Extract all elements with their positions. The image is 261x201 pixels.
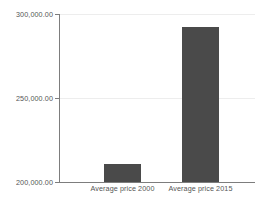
y-tick-mark-300000 — [55, 14, 59, 15]
x-category-label-1: Average price 2015 — [160, 184, 241, 193]
gridline-300000 — [60, 14, 255, 15]
y-tick-label-300000: 300,000.00 — [1, 10, 53, 19]
y-tick-label-250000: 250,000.00 — [1, 94, 53, 103]
y-tick-label-200000: 200,000.00 — [1, 178, 53, 187]
bar-chart: 300,000.00 250,000.00 200,000.00 Average… — [0, 0, 261, 201]
x-axis-baseline — [59, 182, 255, 183]
y-axis-spine — [59, 14, 60, 183]
y-tick-mark-250000 — [55, 98, 59, 99]
gridline-250000 — [60, 98, 255, 99]
bar-average-price-2015 — [182, 27, 219, 182]
y-tick-mark-200000 — [55, 182, 59, 183]
bar-average-price-2000 — [104, 164, 141, 182]
x-category-label-0: Average price 2000 — [82, 184, 163, 193]
